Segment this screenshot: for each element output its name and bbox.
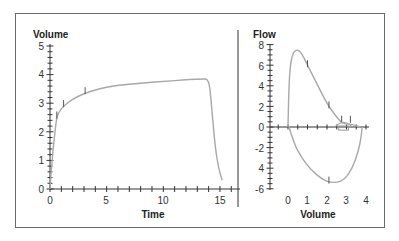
- left-x-label: 5: [103, 195, 109, 206]
- small-loop: [336, 122, 352, 126]
- right-x-label: 4: [363, 195, 369, 206]
- right-y-label: 4: [258, 163, 264, 174]
- left-x-label: 10: [157, 195, 169, 206]
- right-x-label: 0: [285, 195, 291, 206]
- right-y-label: -6: [255, 184, 264, 195]
- left-y-tick-labels: 0 1 2 3 4 5: [38, 41, 44, 195]
- right-y-label: 8: [258, 40, 264, 51]
- left-x-axis-title: Time: [141, 209, 165, 220]
- right-y-label: 2: [258, 102, 264, 113]
- right-y-tick-labels: 8 6 4 2 0 -2 4 -6: [255, 40, 264, 195]
- right-x-label: 1: [304, 195, 310, 206]
- flow-volume-expiratory-curve: [288, 50, 360, 127]
- right-y-label: 0: [258, 122, 264, 133]
- left-y-label: 3: [38, 98, 44, 109]
- left-x-label: 15: [214, 195, 226, 206]
- right-x-tick-labels: 0 1 2 3 4: [285, 195, 369, 206]
- right-y-label: 6: [258, 61, 264, 72]
- left-y-label: 4: [38, 69, 44, 80]
- left-y-label: 1: [38, 155, 44, 166]
- flow-volume-chart: Flow Volume 8 6 4 2 0 -2 4 -6 0 1 2 3 4: [253, 29, 369, 220]
- right-x-axis-title: Volume: [300, 209, 336, 220]
- left-y-label: 0: [38, 184, 44, 195]
- left-y-label: 2: [38, 127, 44, 138]
- right-y-label: -2: [255, 143, 264, 154]
- volume-time-curve: [50, 79, 222, 189]
- spirometry-charts: Volume Time 0 1 2 3 4 5 0 5 10 15 Flow V…: [0, 0, 399, 241]
- volume-time-chart: Volume Time 0 1 2 3 4 5 0 5 10 15: [33, 29, 240, 220]
- left-y-label: 5: [38, 41, 44, 52]
- right-y-label: 4: [258, 81, 264, 92]
- left-y-axis-title: Volume: [33, 29, 69, 40]
- right-y-axis-title: Flow: [253, 29, 276, 40]
- right-x-label: 2: [324, 195, 330, 206]
- left-x-label: 0: [47, 195, 53, 206]
- left-x-tick-labels: 0 5 10 15: [47, 195, 226, 206]
- flow-volume-inspiratory-curve: [289, 127, 362, 182]
- right-x-label: 3: [343, 195, 349, 206]
- left-curve-markers: [57, 87, 85, 118]
